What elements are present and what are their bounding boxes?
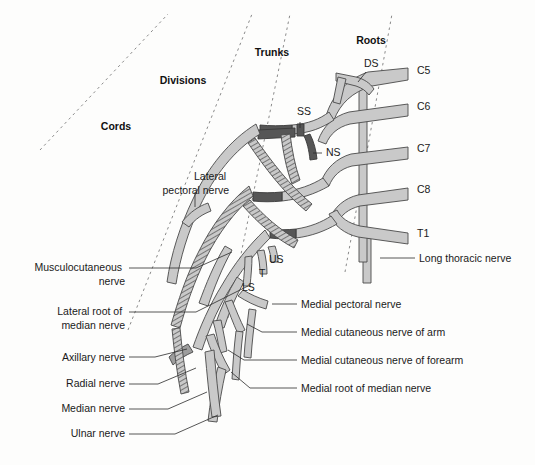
abbrev-label-ls: LS <box>242 281 255 293</box>
abbrev-label-ss: SS <box>297 105 311 117</box>
root-label-c5: C5 <box>417 64 431 76</box>
label-axillary-nerve: Axillary nerve <box>62 351 125 363</box>
label-ulnar-nerve: Ulnar nerve <box>71 427 125 439</box>
section-label-roots: Roots <box>356 34 386 46</box>
label-long-thoracic-nerve: Long thoracic nerve <box>419 252 511 264</box>
label-medial-pectoral-nerve: Medial pectoral nerve <box>301 298 402 310</box>
label-line: Lateral root of <box>57 305 122 317</box>
section-label-trunks: Trunks <box>255 46 290 58</box>
root-labels: C5 C6 C7 C8 T1 <box>417 64 431 239</box>
label-radial-nerve: Radial nerve <box>66 377 125 389</box>
left-callout-labels: Musculocutaneous nerve Lateral root of m… <box>35 261 126 439</box>
label-line: pectoral nerve <box>162 184 229 196</box>
label-musculocutaneous-nerve: Musculocutaneous nerve <box>35 261 126 287</box>
right-callout-labels: Long thoracic nerve Medial pectoral nerv… <box>301 252 511 394</box>
leader-ulnar-nerve <box>129 415 218 434</box>
label-line: nerve <box>99 275 125 287</box>
nerve-root-t1 <box>329 210 408 244</box>
trunk-lower <box>296 216 337 238</box>
section-label-cords: Cords <box>101 120 131 132</box>
root-label-c6: C6 <box>417 100 431 112</box>
division-posterior-lower <box>243 200 298 248</box>
nerve-to-subclavius <box>304 134 317 160</box>
label-lateral-root-of-median-nerve: Lateral root of median nerve <box>57 305 125 331</box>
root-label-c8: C8 <box>417 183 431 195</box>
abbrev-label-ds: DS <box>364 57 379 69</box>
root-label-c7: C7 <box>417 142 431 154</box>
label-median-nerve: Median nerve <box>61 402 125 414</box>
brachial-plexus-diagram: Cords Divisions Trunks Roots C5 C6 C7 C8… <box>0 0 535 465</box>
label-medial-root-of-median-nerve: Medial root of median nerve <box>301 382 431 394</box>
abbrev-label-ns: NS <box>326 146 341 158</box>
nerve-descending-fiber-b <box>244 309 256 358</box>
abbrev-label-t: T <box>259 267 266 279</box>
label-lateral-pectoral-nerve: Lateral pectoral nerve <box>162 170 229 196</box>
inner-callout-labels: Lateral pectoral nerve <box>162 170 229 196</box>
trunk-middle-dark-segment <box>253 192 282 202</box>
label-line: Musculocutaneous <box>35 261 123 273</box>
leader-medial-root-of-median-nerve <box>231 372 297 388</box>
label-medial-cutaneous-nerve-of-arm: Medial cutaneous nerve of arm <box>301 326 445 338</box>
nerve-suprascapular <box>297 124 304 136</box>
abbrev-label-us: US <box>269 253 284 265</box>
nerve-structures <box>167 68 408 422</box>
root-label-t1: T1 <box>417 227 429 239</box>
label-line: Lateral <box>194 170 226 182</box>
label-medial-cutaneous-nerve-of-forearm: Medial cutaneous nerve of forearm <box>301 354 464 366</box>
diagram-canvas: Cords Divisions Trunks Roots C5 C6 C7 C8… <box>0 0 535 465</box>
label-line: median nerve <box>61 319 125 331</box>
section-label-divisions: Divisions <box>160 74 207 86</box>
page-bleed-through <box>18 6 21 18</box>
leader-median-nerve <box>129 392 207 409</box>
